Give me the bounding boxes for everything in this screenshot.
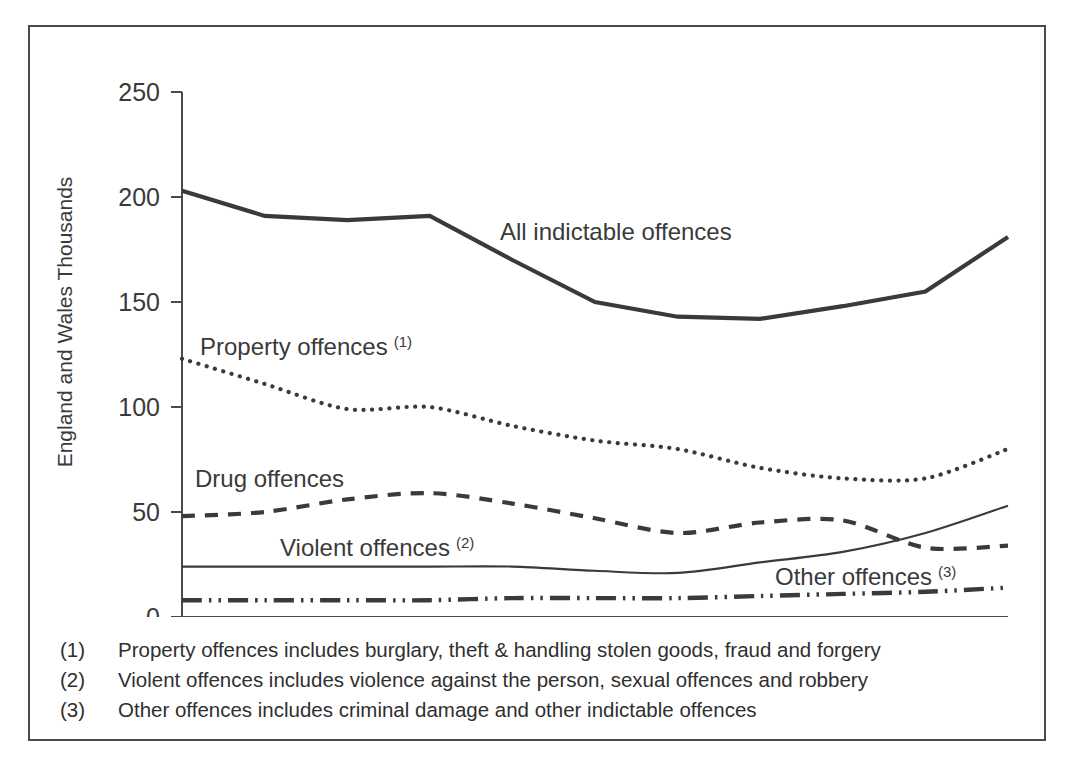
- footnote-row: (2)Violent offences includes violence ag…: [60, 665, 1020, 695]
- y-axis-tick-labels: 050100150200250: [118, 78, 160, 617]
- y-axis-tick-label: 0: [146, 603, 160, 617]
- y-axis-ticks: [171, 92, 182, 617]
- footnote-marker: (2): [60, 665, 118, 695]
- footnote-row: (1)Property offences includes burglary, …: [60, 635, 1020, 665]
- y-axis-tick-label: 100: [118, 393, 160, 421]
- footnote-text: Violent offences includes violence again…: [118, 665, 1020, 695]
- footnote-text: Other offences includes criminal damage …: [118, 695, 1020, 725]
- series-line-property-offences: [182, 359, 1008, 481]
- footnote-marker: (3): [60, 695, 118, 725]
- y-axis-tick-label: 50: [132, 498, 160, 526]
- footnote-row: (3)Other offences includes criminal dama…: [60, 695, 1020, 725]
- footnotes-block: (1)Property offences includes burglary, …: [60, 635, 1020, 725]
- series-line-all-indictable-offences: [182, 191, 1008, 319]
- footnote-marker: (1): [60, 635, 118, 665]
- series-annotation-all-indictable-offences: All indictable offences: [500, 218, 732, 245]
- y-axis-title: England and Wales Thousands: [53, 177, 76, 468]
- chart-plot-area: 050100150200250 199519961997199819992000…: [30, 27, 1044, 617]
- line-chart: 050100150200250 199519961997199819992000…: [30, 27, 1044, 617]
- footnote-text: Property offences includes burglary, the…: [118, 635, 1020, 665]
- y-axis-tick-label: 150: [118, 288, 160, 316]
- series-annotation-other-offences: Other offences(3): [775, 563, 956, 591]
- series-annotation-drug-offences: Drug offences: [195, 465, 344, 492]
- series-annotation-violent-offences: Violent offences(2): [280, 534, 474, 562]
- y-axis-tick-label: 250: [118, 78, 160, 106]
- series-annotation-property-offences: Property offences(1): [200, 333, 412, 361]
- figure-frame: 050100150200250 199519961997199819992000…: [28, 25, 1046, 741]
- y-axis-tick-label: 200: [118, 183, 160, 211]
